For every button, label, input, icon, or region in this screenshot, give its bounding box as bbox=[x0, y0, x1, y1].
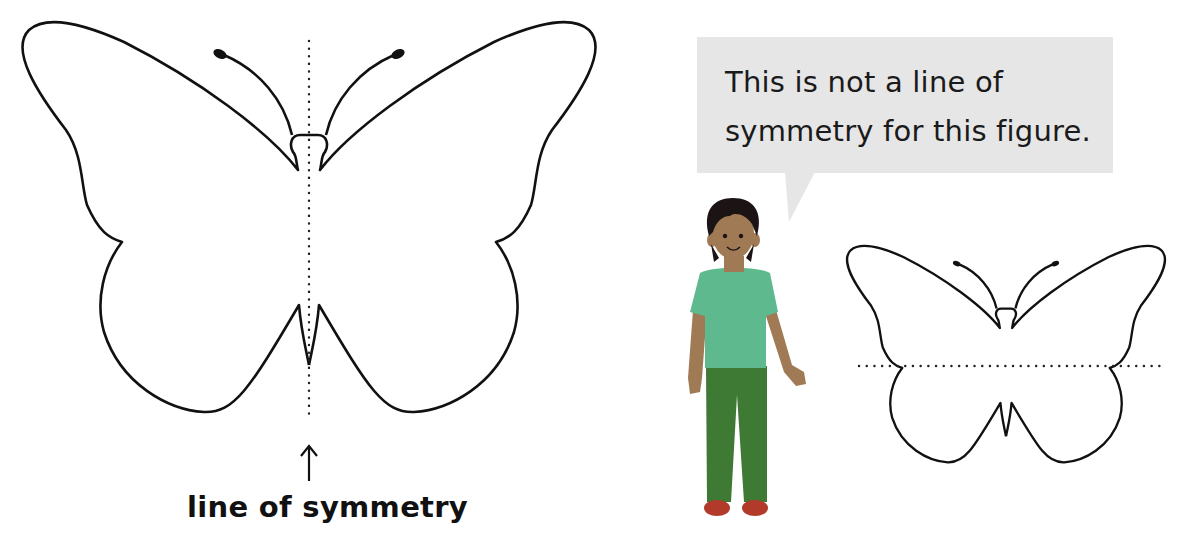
butterfly-left-half bbox=[22, 22, 309, 412]
right-shoe bbox=[742, 500, 768, 516]
left-shoe bbox=[704, 500, 730, 516]
pants bbox=[706, 366, 767, 502]
speech-bubble-tail bbox=[785, 172, 815, 222]
speech-line-1: This is not a line of bbox=[725, 58, 1115, 107]
right-arm bbox=[764, 310, 806, 386]
butterfly-small bbox=[847, 246, 1165, 462]
line-of-symmetry-label: line of symmetry bbox=[187, 490, 468, 524]
speech-line-2: symmetry for this figure. bbox=[725, 107, 1115, 156]
arrow-up-icon bbox=[301, 446, 317, 481]
speech-bubble-text: This is not a line of symmetry for this … bbox=[725, 58, 1115, 156]
butterfly-right-half bbox=[309, 22, 596, 412]
left-arm bbox=[688, 310, 707, 394]
child-character bbox=[688, 198, 806, 516]
